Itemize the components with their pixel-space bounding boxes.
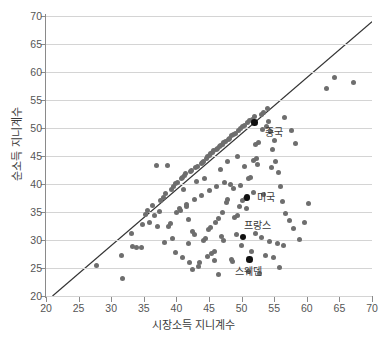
y-tick-label: 45 — [12, 151, 42, 162]
data-point — [282, 115, 287, 120]
x-tick-label: 45 — [194, 303, 224, 314]
data-point — [173, 250, 178, 255]
y-tick-label: 30 — [12, 235, 42, 246]
data-point — [235, 213, 240, 218]
data-point — [272, 138, 277, 143]
data-point — [291, 226, 296, 231]
x-tick-label: 55 — [259, 303, 289, 314]
gridline-horizontal — [46, 44, 372, 45]
highlighted-data-point — [251, 119, 258, 126]
data-point — [139, 245, 144, 250]
data-point — [251, 190, 256, 195]
data-point — [266, 119, 271, 124]
data-point — [168, 221, 173, 226]
x-axis-title: 시장소득 지니계수 — [0, 316, 387, 332]
data-point — [306, 201, 311, 206]
data-point — [277, 265, 282, 270]
data-point — [242, 164, 247, 169]
data-point — [248, 175, 253, 180]
y-tick-label: 20 — [12, 291, 42, 302]
data-point — [218, 167, 223, 172]
gridline-horizontal — [46, 72, 372, 73]
data-point — [221, 238, 226, 243]
data-point — [216, 216, 221, 221]
x-tick-label: 40 — [161, 303, 191, 314]
data-point — [177, 206, 182, 211]
gridline-horizontal — [46, 240, 372, 241]
data-point — [212, 258, 217, 263]
data-point — [324, 86, 329, 91]
x-tick-label: 20 — [31, 303, 61, 314]
data-point — [197, 260, 202, 265]
data-point — [283, 211, 288, 216]
scatter-chart: 중국미국프랑스스웨덴 순소득 지니계수 시장소득 지니계수 2025303540… — [0, 0, 387, 337]
data-point — [273, 159, 278, 164]
data-point — [186, 241, 191, 246]
data-point — [267, 239, 272, 244]
x-tick-label: 50 — [227, 303, 257, 314]
y-tick-label: 50 — [12, 123, 42, 134]
data-point — [192, 197, 197, 202]
data-point — [244, 206, 249, 211]
data-point — [275, 241, 280, 246]
data-point — [190, 267, 195, 272]
data-point — [222, 180, 227, 185]
y-tick-label: 60 — [12, 67, 42, 78]
data-point — [256, 140, 261, 145]
data-point — [157, 209, 162, 214]
point-label: 미국 — [257, 193, 275, 203]
data-point — [289, 128, 294, 133]
data-point — [155, 224, 160, 229]
x-tick-label: 25 — [64, 303, 94, 314]
gridline-horizontal — [46, 184, 372, 185]
data-point — [94, 263, 99, 268]
y-tick-label: 55 — [12, 95, 42, 106]
data-point — [302, 220, 307, 225]
data-point — [180, 255, 185, 260]
data-point — [238, 183, 243, 188]
y-tick-label: 35 — [12, 207, 42, 218]
x-tick-label: 65 — [324, 303, 354, 314]
gridline-horizontal — [46, 100, 372, 101]
data-point — [297, 237, 302, 242]
data-point — [119, 253, 124, 258]
data-point — [270, 147, 275, 152]
data-point — [186, 217, 191, 222]
data-point — [203, 236, 208, 241]
data-point — [230, 259, 235, 264]
data-point — [332, 75, 337, 80]
data-point — [351, 80, 356, 85]
data-point — [120, 276, 125, 281]
data-point — [194, 179, 199, 184]
data-point — [143, 212, 148, 217]
data-point — [154, 163, 159, 168]
data-point — [152, 213, 157, 218]
data-point — [140, 222, 145, 227]
point-label: 스웨덴 — [235, 267, 262, 277]
x-tick-label: 60 — [292, 303, 322, 314]
data-point — [192, 232, 197, 237]
data-point — [271, 255, 276, 260]
plot-area: 중국미국프랑스스웨덴 — [46, 16, 372, 296]
data-point — [281, 243, 286, 248]
data-point — [235, 154, 240, 159]
data-point — [280, 199, 285, 204]
data-point — [163, 191, 168, 196]
gridline-horizontal — [46, 16, 372, 17]
data-point — [220, 210, 225, 215]
y-tick-label: 40 — [12, 179, 42, 190]
data-point — [129, 231, 134, 236]
data-point — [254, 156, 259, 161]
data-point — [278, 184, 283, 189]
point-label: 프랑스 — [244, 221, 271, 231]
data-point — [202, 176, 207, 181]
data-point — [265, 106, 270, 111]
y-tick-label: 70 — [12, 11, 42, 22]
data-point — [165, 163, 170, 168]
data-point — [237, 204, 242, 209]
y-tick-label: 25 — [12, 263, 42, 274]
gridline-horizontal — [46, 212, 372, 213]
data-point — [181, 187, 186, 192]
x-tick-label: 30 — [96, 303, 126, 314]
data-point — [216, 272, 221, 277]
